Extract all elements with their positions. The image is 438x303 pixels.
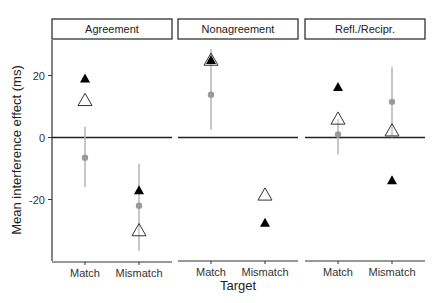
y-tick-label: 0	[39, 132, 45, 144]
filled-triangle-marker	[333, 82, 343, 91]
filled-triangle-marker	[260, 218, 270, 227]
x-tick-label: Mismatch	[368, 266, 415, 278]
facet-strip-label: Agreement	[85, 23, 139, 35]
x-tick-label: Match	[196, 266, 226, 278]
facet-strip-label: Refl./Recipr.	[335, 23, 395, 35]
x-axis-title: Target	[220, 278, 257, 293]
x-tick-label: Match	[70, 267, 100, 279]
x-tick-label: Mismatch	[241, 266, 288, 278]
y-tick-label: 20	[33, 70, 45, 82]
filled-triangle-marker	[134, 185, 144, 194]
gray-dot-marker	[82, 154, 88, 160]
facet-strip-label: Nonagreement	[202, 23, 275, 35]
x-tick-label: Match	[323, 266, 353, 278]
open-triangle-marker	[78, 93, 92, 105]
gray-dot-marker	[335, 131, 341, 137]
open-triangle-marker	[331, 112, 345, 124]
gray-dot-marker	[208, 92, 214, 98]
gray-dot-marker	[136, 203, 142, 209]
open-triangle-marker	[385, 124, 399, 136]
x-tick-label: Mismatch	[115, 267, 162, 279]
y-axis-title: Mean interference effect (ms)	[9, 65, 24, 235]
open-triangle-marker	[258, 188, 272, 200]
filled-triangle-marker	[387, 175, 397, 184]
y-tick-label: -20	[29, 194, 45, 206]
gray-dot-marker	[389, 99, 395, 105]
open-triangle-marker	[132, 224, 146, 236]
filled-triangle-marker	[80, 74, 90, 83]
faceted-scatter-chart: 200-20Mean interference effect (ms)Agree…	[0, 0, 438, 303]
